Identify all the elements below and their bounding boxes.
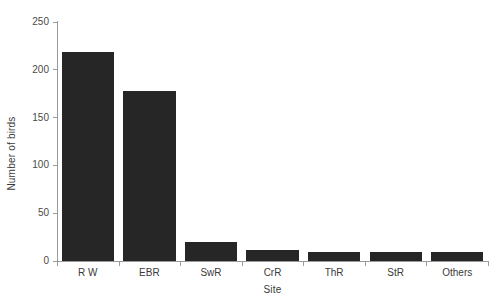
y-tick-label: 150: [32, 111, 49, 124]
bar[interactable]: [123, 91, 175, 261]
x-tick-mark: [57, 262, 58, 266]
x-axis-title: Site: [57, 284, 488, 295]
x-tick-label: SwR: [180, 267, 242, 283]
bar-slot: [365, 22, 427, 261]
bar-slot: [119, 22, 181, 261]
bar[interactable]: [62, 52, 114, 261]
bar[interactable]: [308, 252, 360, 261]
bar-slot: [180, 22, 242, 261]
x-tick-label: StR: [365, 267, 427, 283]
x-tick-label: CrR: [242, 267, 304, 283]
y-tick-label: 200: [32, 63, 49, 76]
x-tick-mark: [426, 262, 427, 266]
x-tick-mark: [242, 262, 243, 266]
bar[interactable]: [370, 252, 422, 261]
y-tick-label: 0: [43, 254, 49, 267]
x-tick-mark: [488, 262, 489, 266]
bar[interactable]: [246, 250, 298, 261]
x-tick-label: Others: [426, 267, 488, 283]
x-tick-mark: [119, 262, 120, 266]
x-tick-label: ThR: [303, 267, 365, 283]
bar-slot: [242, 22, 304, 261]
bar-slot: [57, 22, 119, 261]
x-axis-tick-labels: R WEBRSwRCrRThRStROthers: [57, 267, 488, 283]
x-tick-label: R W: [57, 267, 119, 283]
x-tick-mark: [180, 262, 181, 266]
y-tick-label: 250: [32, 15, 49, 28]
x-tick-mark: [365, 262, 366, 266]
bar[interactable]: [185, 242, 237, 261]
y-tick-label: 100: [32, 158, 49, 171]
x-tick-mark: [303, 262, 304, 266]
bar-slot: [426, 22, 488, 261]
y-tick-label: 50: [38, 206, 49, 219]
x-axis-ticks: [57, 261, 488, 266]
bar-series: [57, 22, 488, 261]
bar-chart: Number of birds 050100150200250 R WEBRSw…: [0, 0, 491, 307]
x-tick-label: EBR: [119, 267, 181, 283]
bar-slot: [303, 22, 365, 261]
y-axis-title: Number of birds: [0, 0, 22, 307]
bar[interactable]: [431, 252, 483, 261]
